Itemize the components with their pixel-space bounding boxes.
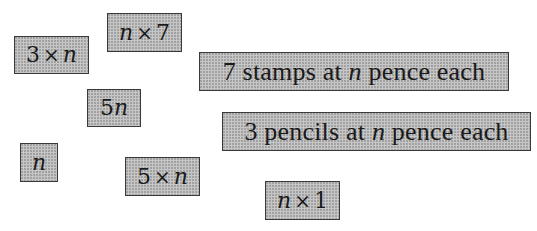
card-variable: n (349, 59, 362, 85)
card-text-before: 3 pencils at (244, 119, 372, 145)
card-variable: n (372, 119, 385, 145)
expression-card-n-times-1[interactable]: n × 1 (265, 181, 340, 220)
card-number: 3 (26, 44, 40, 66)
times-symbol: × (136, 23, 153, 43)
card-variable: n (63, 44, 77, 66)
expression-card-n-times-7[interactable]: n × 7 (107, 13, 182, 52)
word-card-stamps[interactable]: 7 stamps at n pence each (199, 52, 509, 91)
card-number: 5 (137, 166, 151, 188)
times-symbol: × (154, 167, 171, 187)
word-card-pencils[interactable]: 3 pencils at n pence each (222, 112, 531, 151)
card-variable: n (277, 190, 291, 212)
times-symbol: × (43, 45, 60, 65)
card-variable: n (119, 22, 133, 44)
expression-card-3-times-n[interactable]: 3 × n (14, 36, 89, 74)
card-text-after: pence each (362, 59, 485, 85)
times-symbol: × (294, 191, 311, 211)
card-variable: n (174, 166, 188, 188)
card-number: 7 (156, 22, 170, 44)
expression-card-n[interactable]: n (20, 143, 58, 182)
card-variable: n (114, 97, 128, 119)
expression-card-5-times-n[interactable]: 5 × n (125, 157, 200, 196)
expression-card-5n[interactable]: 5 n (87, 89, 141, 127)
card-number: 5 (100, 97, 114, 119)
card-variable: n (32, 152, 46, 174)
card-text-after: pence each (385, 119, 508, 145)
card-text-before: 7 stamps at (223, 59, 349, 85)
card-number: 1 (314, 190, 328, 212)
